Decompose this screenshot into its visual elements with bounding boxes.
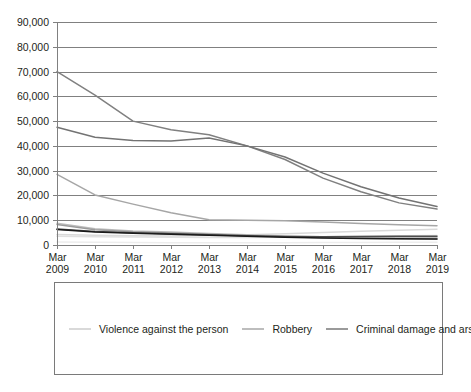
x-tick-label: Mar2017 <box>350 251 374 275</box>
x-tick-label: Mar2013 <box>198 251 222 275</box>
plot-area: 90,00080,00070,00060,00050,00040,00030,0… <box>0 0 471 278</box>
y-tick-label: 0 <box>43 239 49 251</box>
x-tick-label: Mar2012 <box>160 251 184 275</box>
series-line <box>57 127 437 206</box>
legend-item[interactable]: Violence against the person <box>55 287 228 370</box>
y-tick-marks <box>53 23 57 246</box>
legend-item-label: Robbery <box>272 323 312 335</box>
legend-line-swatch <box>326 328 348 330</box>
legend-item-label: Violence against the person <box>99 323 228 335</box>
gridlines <box>57 23 437 221</box>
legend-item-label: Criminal damage and arson <box>356 323 471 335</box>
series-line <box>57 242 437 243</box>
x-tick-label: Mar2019 <box>426 251 450 275</box>
x-axis-tick-labels: Mar2009Mar2010Mar2011Mar2012Mar2013Mar20… <box>46 251 450 275</box>
x-tick-label: Mar2010 <box>84 251 108 275</box>
y-tick-label: 60,000 <box>17 90 49 102</box>
legend-line-swatch <box>242 328 264 330</box>
crime-offences-line-chart: 90,00080,00070,00060,00050,00040,00030,0… <box>0 0 471 392</box>
x-tick-label: Mar2015 <box>274 251 298 275</box>
x-tick-label: Mar2018 <box>388 251 412 275</box>
y-tick-label: 10,000 <box>17 214 49 226</box>
y-tick-label: 40,000 <box>17 140 49 152</box>
chart-legend: Violence against the personRobberyCrimin… <box>54 282 443 375</box>
legend-item[interactable]: Robbery <box>228 287 312 370</box>
x-tick-label: Mar2009 <box>46 251 70 275</box>
y-tick-label: 80,000 <box>17 41 49 53</box>
x-tick-label: Mar2016 <box>312 251 336 275</box>
y-axis-tick-labels: 90,00080,00070,00060,00050,00040,00030,0… <box>17 16 49 251</box>
y-tick-label: 30,000 <box>17 165 49 177</box>
plot-svg: 90,00080,00070,00060,00050,00040,00030,0… <box>0 0 471 278</box>
x-tick-label: Mar2011 <box>122 251 145 275</box>
y-tick-label: 70,000 <box>17 66 49 78</box>
x-tick-label: Mar2014 <box>236 251 260 275</box>
legend-line-swatch <box>69 328 91 330</box>
series-line <box>57 72 437 210</box>
legend-grid: Violence against the personRobberyCrimin… <box>55 283 442 374</box>
data-series-lines <box>57 72 437 243</box>
legend-item[interactable]: Criminal damage and arson <box>312 287 471 370</box>
y-tick-label: 90,000 <box>17 16 49 28</box>
series-line <box>57 174 437 225</box>
y-tick-label: 50,000 <box>17 115 49 127</box>
y-tick-label: 20,000 <box>17 189 49 201</box>
